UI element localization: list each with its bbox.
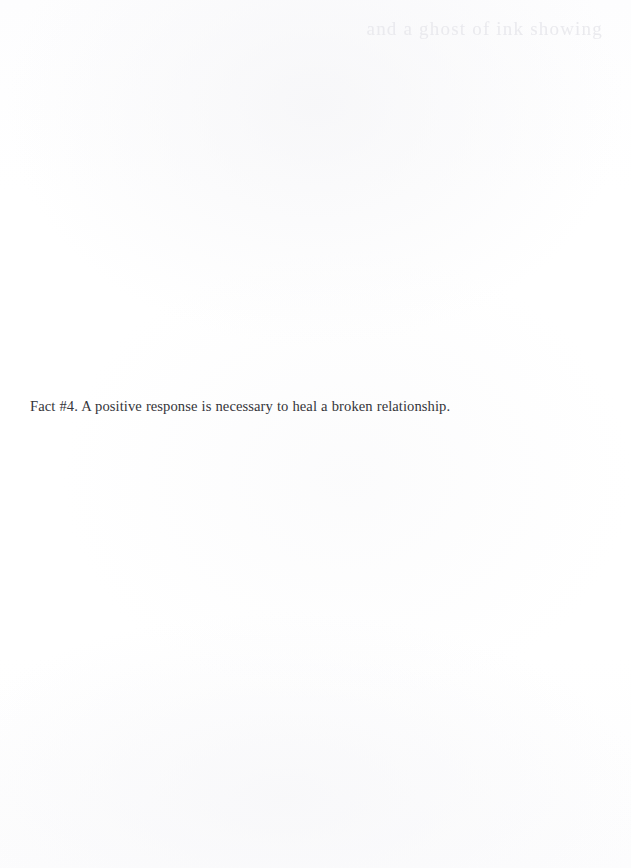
paper-texture: [0, 0, 631, 868]
bleed-through-artifact: and a ghost of ink showing: [367, 19, 604, 40]
body-text-line: Fact #4. A positive response is necessar…: [30, 396, 590, 416]
scanned-page: and a ghost of ink showing Fact #4. A po…: [0, 0, 631, 868]
